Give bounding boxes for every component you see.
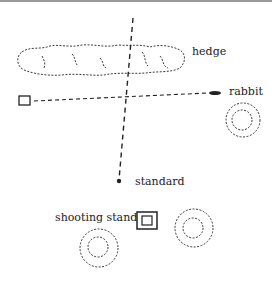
standard-label: standard xyxy=(135,175,185,188)
standard-dot-icon xyxy=(117,179,121,183)
diagram-canvas xyxy=(0,0,272,287)
horizontal-dashed-line xyxy=(34,93,208,101)
bush-right-icon xyxy=(175,209,213,247)
hedge-shape xyxy=(18,45,185,75)
hedge-label: hedge xyxy=(192,45,226,58)
bush-rabbit-icon xyxy=(226,103,260,137)
origin-square-icon xyxy=(19,96,30,105)
rabbit-marker-icon xyxy=(209,91,221,95)
vertical-dashed-line xyxy=(119,18,133,180)
bush-left-icon xyxy=(80,229,118,267)
shooting-stand-icon xyxy=(137,212,157,229)
shooting-stand-label: shooting stand xyxy=(55,211,137,224)
rabbit-label: rabbit xyxy=(229,85,263,98)
